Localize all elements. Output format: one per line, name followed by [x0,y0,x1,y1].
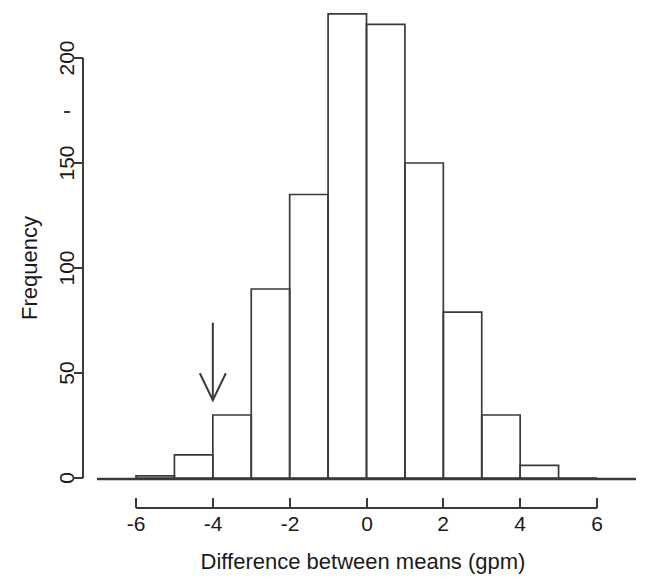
table-row [367,24,405,478]
x-tick-label-6: 6 [591,512,603,535]
table-row [443,312,481,478]
x-tick-label--6: -6 [127,512,146,535]
y-tick-label-0: 0 [55,472,78,484]
y-axis-title: Frequency [17,216,42,320]
table-row [520,465,558,478]
table-row [328,14,366,478]
table-row [290,195,328,479]
histogram-svg: 200 150 100 50 0 Frequency [0,0,656,582]
x-axis: -6 -4 -2 0 2 4 6 Difference between mean… [127,498,603,574]
table-row [174,455,212,478]
table-row [405,163,443,478]
histogram-bars [97,14,636,479]
y-tick-label-200: 200 [55,40,78,75]
x-axis-title: Difference between means (gpm) [201,549,526,574]
y-tick-label-50: 50 [55,361,78,384]
x-tick-label--2: -2 [281,512,300,535]
x-tick-label-2: 2 [437,512,449,535]
reference-arrow [200,323,226,401]
x-tick-label-4: 4 [514,512,526,535]
table-row [251,289,289,478]
y-tick-label-100: 100 [55,250,78,285]
histogram-figure: 200 150 100 50 0 Frequency [0,0,656,582]
y-tick-label-150: 150 [55,145,78,180]
table-row [482,415,520,478]
x-tick-label-0: 0 [361,512,373,535]
table-row [136,476,174,478]
x-tick-label--4: -4 [204,512,223,535]
y-axis: 200 150 100 50 0 Frequency [17,40,84,483]
table-row [213,415,251,478]
